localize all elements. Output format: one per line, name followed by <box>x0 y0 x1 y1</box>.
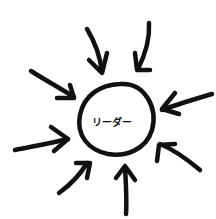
arrow-icon <box>135 23 150 70</box>
arrow-icon <box>87 29 107 73</box>
arrow-icon <box>157 144 200 170</box>
center-label: リーダー <box>80 114 144 129</box>
arrow-icon <box>15 127 68 151</box>
arrow-icon <box>31 71 74 98</box>
arrow-icon <box>162 93 212 114</box>
diagram-canvas: リーダー <box>0 0 216 219</box>
arrow-icon <box>59 163 90 193</box>
diagram-drawing <box>0 0 216 219</box>
arrow-icon <box>116 166 135 214</box>
